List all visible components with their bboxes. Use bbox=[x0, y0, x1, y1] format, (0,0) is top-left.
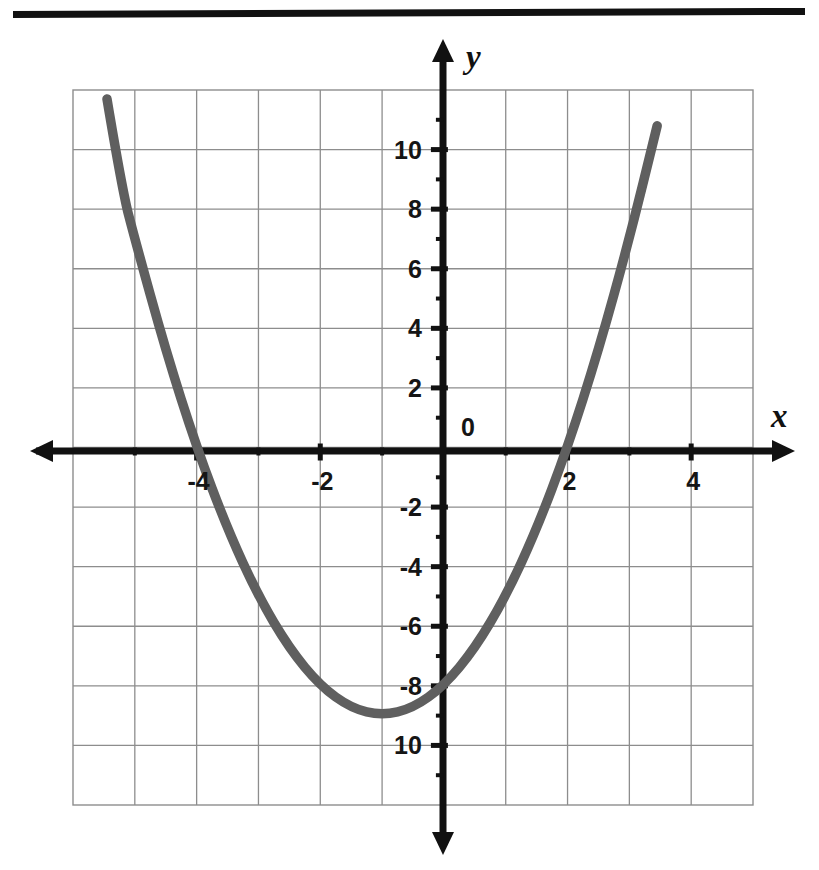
page-canvas: 108642-2-4-6-810-4-2240 x y bbox=[0, 0, 819, 870]
y-tick-label: 10 bbox=[394, 136, 422, 164]
origin-label: 0 bbox=[461, 413, 475, 441]
coordinate-plane-svg: 108642-2-4-6-810-4-2240 x y bbox=[0, 0, 819, 870]
y-tick-label: -2 bbox=[400, 493, 422, 521]
x-axis-arrow-right bbox=[772, 440, 795, 462]
x-tick-label: -4 bbox=[188, 467, 210, 495]
x-tick-label: -2 bbox=[311, 467, 333, 495]
y-tick-label: -4 bbox=[400, 553, 422, 581]
y-tick-label: -6 bbox=[400, 612, 422, 640]
y-tick-label: 10 bbox=[394, 731, 422, 759]
y-tick-label: 8 bbox=[408, 195, 422, 223]
y-tick-label: 4 bbox=[408, 314, 422, 342]
y-axis-arrow-up bbox=[432, 39, 454, 62]
x-axis-arrow-left bbox=[30, 440, 53, 462]
y-tick-label: 2 bbox=[408, 374, 422, 402]
y-tick-label: -8 bbox=[400, 672, 422, 700]
y-tick-label: 6 bbox=[408, 255, 422, 283]
x-tick-label: 2 bbox=[563, 467, 577, 495]
y-axis-arrow-down bbox=[432, 832, 454, 855]
parabola-figure: 108642-2-4-6-810-4-2240 x y bbox=[0, 0, 819, 870]
x-tick-label: 4 bbox=[686, 467, 700, 495]
y-axis-label: y bbox=[462, 39, 481, 75]
x-axis-label: x bbox=[770, 398, 788, 434]
